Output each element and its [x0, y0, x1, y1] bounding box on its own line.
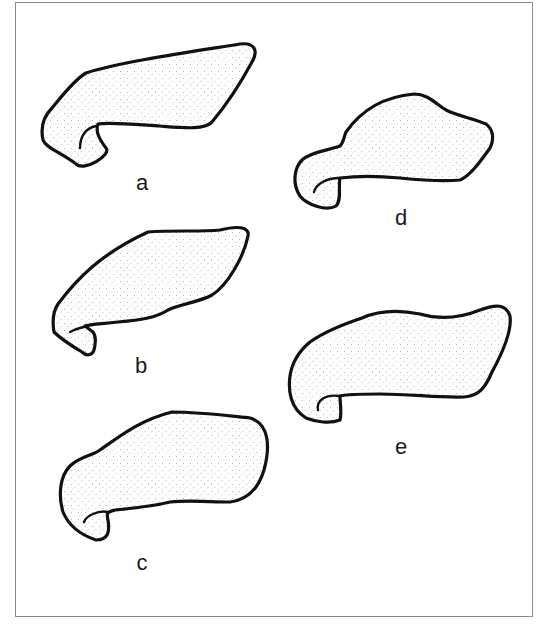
label-c: c [137, 552, 148, 574]
shape-b [53, 228, 248, 355]
shapes-diagram [0, 0, 542, 624]
label-e: e [395, 436, 407, 458]
shape-c [60, 412, 267, 540]
label-b: b [135, 355, 147, 377]
shape-d [295, 94, 493, 208]
label-a: a [136, 172, 148, 194]
shape-a [42, 44, 255, 166]
shape-e [289, 306, 510, 422]
label-d: d [395, 207, 407, 229]
